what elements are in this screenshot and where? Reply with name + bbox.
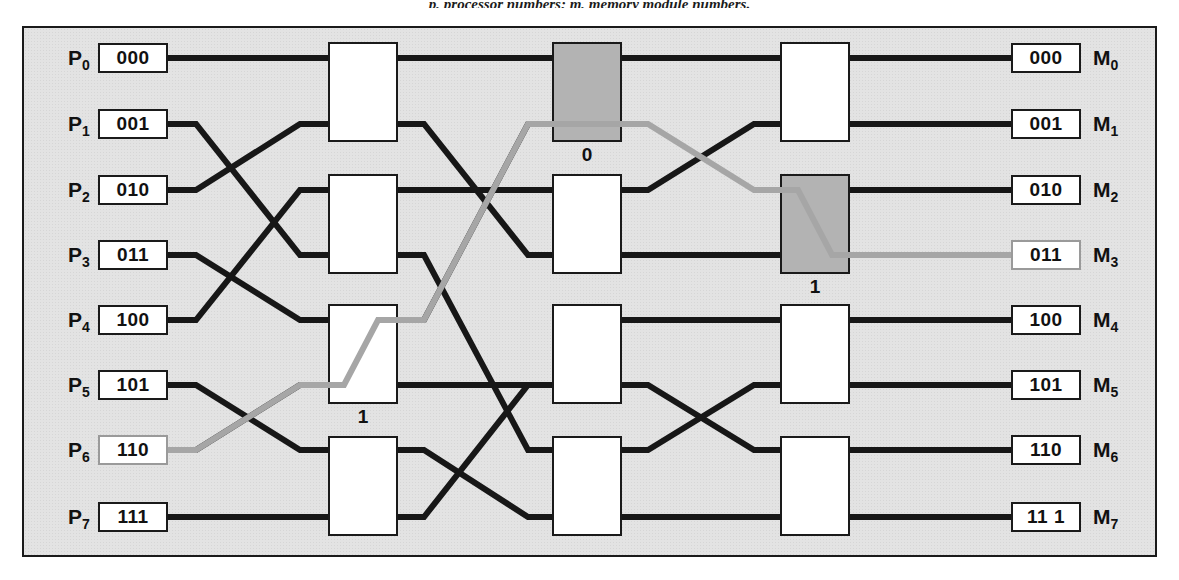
processor-value-5[interactable]: 101 (98, 370, 168, 400)
memory-value-1[interactable]: 001 (1011, 109, 1081, 139)
memory-label-5: M5 (1093, 373, 1118, 400)
processor-label-4: P4 (68, 308, 90, 335)
processor-label-3: P3 (68, 243, 90, 270)
switch-stage1-row2[interactable] (328, 304, 398, 404)
processor-value-7[interactable]: 111 (98, 502, 168, 532)
processor-value-1[interactable]: 001 (98, 109, 168, 139)
memory-label-6: M6 (1093, 438, 1118, 465)
memory-value-5[interactable]: 101 (1011, 370, 1081, 400)
switch-stage1-row2-label: 1 (328, 406, 398, 428)
processor-label-2: P2 (68, 178, 90, 205)
switch-stage2-row2[interactable] (552, 304, 622, 404)
memory-label-7: M7 (1093, 505, 1118, 532)
memory-value-6[interactable]: 110 (1011, 435, 1081, 465)
switch-stage3-row2[interactable] (780, 304, 850, 404)
memory-value-2[interactable]: 010 (1011, 175, 1081, 205)
switch-stage1-row0[interactable] (328, 42, 398, 142)
switch-stage3-row1-label: 1 (780, 276, 850, 298)
memory-label-2: M2 (1093, 178, 1118, 205)
processor-value-2[interactable]: 010 (98, 175, 168, 205)
switch-stage3-row0[interactable] (780, 42, 850, 142)
processor-label-1: P1 (68, 112, 90, 139)
switch-stage2-row3[interactable] (552, 436, 622, 536)
switch-stage1-row1[interactable] (328, 174, 398, 274)
switch-stage3-row1[interactable] (780, 174, 850, 274)
memory-value-3[interactable]: 011 (1011, 240, 1081, 270)
switch-stage2-row1[interactable] (552, 174, 622, 274)
processor-label-0: P0 (68, 46, 90, 73)
processor-value-4[interactable]: 100 (98, 305, 168, 335)
diagram-page: p, processor numbers; m, memory module n… (0, 0, 1179, 580)
processor-label-6: P6 (68, 438, 90, 465)
memory-value-7[interactable]: 11 1 (1011, 502, 1081, 532)
memory-value-0[interactable]: 000 (1011, 43, 1081, 73)
memory-label-1: M1 (1093, 112, 1118, 139)
memory-label-3: M3 (1093, 243, 1118, 270)
memory-label-4: M4 (1093, 308, 1118, 335)
processor-label-7: P7 (68, 505, 90, 532)
memory-label-0: M0 (1093, 46, 1118, 73)
switch-stage2-row0[interactable] (552, 42, 622, 142)
memory-value-4[interactable]: 100 (1011, 305, 1081, 335)
processor-value-6[interactable]: 110 (98, 435, 168, 465)
switch-stage3-row3[interactable] (780, 436, 850, 536)
processor-label-5: P5 (68, 373, 90, 400)
processor-value-3[interactable]: 011 (98, 240, 168, 270)
switch-stage1-row3[interactable] (328, 436, 398, 536)
processor-value-0[interactable]: 000 (98, 43, 168, 73)
switch-stage2-row0-label: 0 (552, 144, 622, 166)
